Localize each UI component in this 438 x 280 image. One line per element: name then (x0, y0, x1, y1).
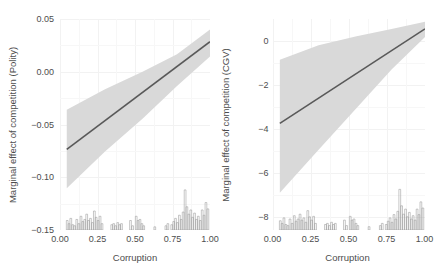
rug-bar (76, 219, 78, 230)
rug-bar (421, 208, 423, 230)
rug-bar (154, 227, 156, 230)
y-tick-label: −4 (249, 124, 269, 134)
x-tick-label: 1.00 (405, 234, 438, 245)
rug-bar (130, 221, 132, 231)
rug-bar (310, 220, 312, 230)
rug-bar (167, 224, 169, 230)
rug-bar (420, 202, 422, 230)
rug-bar (66, 221, 68, 231)
rug-bar (95, 217, 97, 230)
rug-bar (205, 203, 207, 230)
rug-bar (393, 215, 395, 230)
rug-bar (368, 227, 370, 230)
rug-bar (82, 222, 84, 230)
rug-bar (188, 214, 190, 230)
rug-bar (306, 211, 308, 230)
rug-bar (293, 216, 295, 230)
rug-bar (379, 226, 381, 230)
rug-bar (177, 223, 179, 230)
y-tick-label: 0 (249, 36, 269, 46)
rug-bar (135, 216, 137, 230)
rug-bar (207, 209, 209, 230)
x-axis-title-polity: Corruption (55, 252, 215, 264)
x-tick-label: 0.00 (40, 234, 80, 245)
rug-bar (330, 222, 332, 230)
y-axis-title-cgv: Marginal effect of competition (CGV) (219, 0, 233, 250)
panel-cgv: Marginal effect of competition (CGV) 0−2… (216, 0, 432, 280)
rug-bar (182, 212, 184, 230)
rug-bar (113, 224, 115, 230)
rug-bar (398, 189, 400, 230)
y-tick-label: −8 (249, 212, 269, 222)
rug-bar (351, 220, 353, 230)
rug-bar (314, 223, 316, 230)
rug-bar (408, 212, 410, 230)
rug-bar (203, 215, 205, 230)
rug-bar (345, 226, 347, 230)
rug-bar (416, 209, 418, 230)
rug-bar (349, 216, 351, 230)
rug-bar (343, 220, 345, 230)
rug-bar (308, 217, 310, 230)
y-tick-label: −0.10 (20, 172, 54, 182)
x-axis-title-cgv: Corruption (268, 252, 428, 264)
x-tick-label: 0.25 (78, 234, 118, 245)
rug-bar (99, 216, 101, 230)
rug-bar (121, 224, 123, 230)
rug-bar (297, 219, 299, 230)
rug-bar (190, 210, 192, 230)
rug-bar (414, 220, 416, 230)
rug-bar (141, 224, 143, 230)
rug-bar (171, 225, 173, 230)
rug-bar (165, 226, 167, 230)
rug-bar (387, 221, 389, 230)
rug-bar (88, 221, 90, 231)
rug-bar (74, 226, 76, 230)
rug-bar (400, 206, 402, 230)
rug-bar (302, 218, 304, 230)
rug-bar (394, 219, 396, 230)
rug-bar (175, 218, 177, 230)
rug-bar (291, 223, 293, 230)
rug-bar (173, 222, 175, 230)
rug-histogram-polity (60, 19, 210, 230)
rug-bar (132, 226, 134, 230)
rug-bar (117, 223, 119, 230)
rug-bar (197, 216, 199, 230)
rug-bar (143, 226, 145, 230)
rug-bar (281, 223, 283, 230)
x-tick-label: 0.50 (115, 234, 155, 245)
rug-bar (179, 215, 181, 230)
rug-bar (194, 213, 196, 230)
rug-bar (279, 221, 281, 230)
rug-bar (334, 223, 336, 230)
rug-bar (196, 219, 198, 230)
rug-bar (412, 216, 414, 230)
rug-bar (201, 210, 203, 230)
rug-bar (389, 218, 391, 230)
x-tick-label: 0.50 (329, 234, 369, 245)
rug-bar (90, 218, 92, 230)
y-tick-label: −6 (249, 168, 269, 178)
rug-bar (192, 217, 194, 230)
rug-bar (356, 226, 358, 230)
rug-bar (332, 225, 334, 230)
rug-bar (312, 216, 314, 230)
x-tick-label: 0.00 (253, 234, 293, 245)
plot-area-polity (60, 19, 210, 230)
rug-bar (391, 222, 393, 230)
rug-bar (402, 214, 404, 230)
rug-histogram-cgv (273, 19, 425, 230)
rug-bar (396, 211, 398, 230)
rug-bar (186, 207, 188, 230)
rug-bar (285, 225, 287, 230)
rug-bar (299, 214, 301, 230)
rug-bar (70, 218, 72, 230)
y-tick-label: −2 (249, 80, 269, 90)
y-tick-label: 0.05 (20, 14, 54, 24)
rug-bar (184, 190, 186, 230)
rug-bar (404, 209, 406, 230)
rug-bar (295, 221, 297, 230)
rug-bar (78, 224, 80, 230)
rug-bar (115, 226, 117, 230)
